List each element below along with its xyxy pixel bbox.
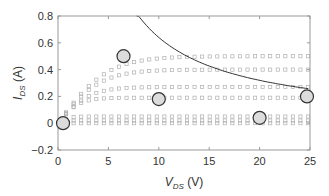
x-tick-label: 0 [55, 155, 61, 167]
x-tick-label: 25 [304, 155, 316, 167]
iv-curve-markers [64, 55, 309, 125]
series-markers [64, 85, 309, 115]
x-tick-label: 5 [105, 155, 111, 167]
x-tick-label: 15 [203, 155, 215, 167]
series-markers [64, 68, 309, 115]
series-markers [64, 96, 309, 115]
highlight-point [300, 90, 313, 103]
power-limit-curve [137, 16, 308, 89]
highlight-point [253, 111, 266, 124]
highlight-point [152, 93, 165, 106]
x-axis-title: VDS (V) [165, 175, 203, 191]
highlight-point [117, 50, 130, 63]
y-tick-label: 0.6 [38, 37, 53, 49]
y-tick-label: 0.4 [38, 64, 53, 76]
y-tick-label: 0 [47, 117, 53, 129]
y-tick-label: 0.2 [38, 90, 53, 102]
series-markers [64, 115, 309, 121]
highlight-points [57, 50, 314, 130]
y-tick-label: 0.8 [38, 10, 53, 22]
y-tick-label: −0.2 [31, 144, 53, 156]
y-axis-title: IDS (A) [11, 66, 27, 100]
x-tick-label: 20 [253, 155, 265, 167]
x-tick-label: 10 [153, 155, 165, 167]
chart: 0510152025−0.200.20.40.60.8 VDS (V) IDS … [0, 0, 329, 196]
series-markers [64, 55, 309, 114]
highlight-point [57, 117, 70, 130]
series-markers [64, 119, 309, 123]
